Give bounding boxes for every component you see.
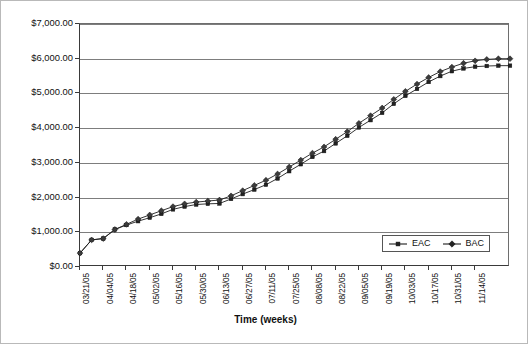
y-axis-tick-label: $7,000.00 xyxy=(1,18,73,28)
x-axis-tick-label: 10/17/05 xyxy=(431,273,440,304)
plot-area xyxy=(79,23,509,266)
data-point xyxy=(414,81,420,87)
data-point xyxy=(427,80,431,84)
x-axis-tick-mark xyxy=(428,266,429,270)
x-axis-tick-mark xyxy=(195,266,196,270)
data-point xyxy=(461,60,467,66)
x-axis-tick-label: 05/16/05 xyxy=(175,273,184,304)
x-axis-tick-mark xyxy=(172,266,173,270)
x-axis-tick-label: 04/04/05 xyxy=(106,273,115,304)
x-axis-tick-label: 05/30/05 xyxy=(199,273,208,304)
legend-marker-square-icon xyxy=(388,239,408,249)
data-point xyxy=(369,118,373,122)
data-point xyxy=(449,64,455,70)
data-point xyxy=(484,57,490,63)
x-axis-tick-mark xyxy=(102,266,103,270)
data-point xyxy=(438,74,442,78)
y-axis-tick-label: $1,000.00 xyxy=(1,226,73,236)
data-point xyxy=(426,75,432,81)
data-point xyxy=(508,64,512,68)
data-point xyxy=(263,177,269,183)
x-axis-tick-label: 09/19/05 xyxy=(385,273,394,304)
data-point xyxy=(497,64,501,68)
legend-marker-diamond-icon xyxy=(442,239,462,249)
data-point xyxy=(298,157,304,163)
x-axis-tick-label: 10/03/05 xyxy=(408,273,417,304)
x-axis-tick-mark xyxy=(149,266,150,270)
data-point xyxy=(321,144,327,150)
y-axis-tick-label: $6,000.00 xyxy=(1,53,73,63)
data-point xyxy=(275,171,281,177)
legend-label: BAC xyxy=(466,238,485,249)
y-axis-tick-label: $2,000.00 xyxy=(1,192,73,202)
data-point xyxy=(392,102,396,106)
x-axis-tick-mark xyxy=(265,266,266,270)
x-axis-tick-label: 07/25/05 xyxy=(292,273,301,304)
data-point xyxy=(415,87,419,91)
x-axis-tick-label: 07/11/05 xyxy=(268,273,277,303)
data-point xyxy=(286,164,292,170)
x-axis-tick-mark xyxy=(79,266,80,270)
x-axis-tick-mark xyxy=(335,266,336,270)
x-axis-tick-label: 06/13/05 xyxy=(222,273,231,304)
x-axis-tick-mark xyxy=(358,266,359,270)
data-point xyxy=(507,56,513,62)
x-axis-tick-label: 11/14/05 xyxy=(478,273,487,303)
x-axis-tick-mark xyxy=(451,266,452,270)
data-point xyxy=(404,94,408,98)
x-axis-tick-label: 03/21/05 xyxy=(82,273,91,304)
legend-entry-eac: EAC xyxy=(388,238,431,249)
x-axis-tick-label: 05/02/05 xyxy=(152,273,161,304)
x-axis-tick-mark xyxy=(218,266,219,270)
data-point xyxy=(485,64,489,68)
data-point xyxy=(437,69,443,75)
series-line-bac xyxy=(80,59,510,253)
x-axis-tick-mark xyxy=(311,266,312,270)
y-axis-tick-label: $3,000.00 xyxy=(1,157,73,167)
data-point xyxy=(276,177,280,181)
x-axis-tick-mark xyxy=(404,266,405,270)
x-axis-tick-label: 08/22/05 xyxy=(338,273,347,304)
data-point xyxy=(462,67,466,71)
y-axis-tick-label: $5,000.00 xyxy=(1,87,73,97)
x-axis-tick-mark xyxy=(288,266,289,270)
data-point xyxy=(251,183,257,189)
x-axis-tick-label: 10/31/05 xyxy=(454,273,463,304)
data-point xyxy=(333,136,339,142)
data-point xyxy=(344,129,350,135)
series-markers-bac xyxy=(77,56,513,256)
y-axis-tick-label: $0.00 xyxy=(1,261,73,271)
legend-label: EAC xyxy=(412,238,431,249)
x-axis-tick-label: 04/18/05 xyxy=(129,273,138,304)
x-axis-tick-label: 06/27/05 xyxy=(245,273,254,304)
series-line-eac xyxy=(80,66,510,253)
data-point xyxy=(472,58,478,64)
data-point xyxy=(380,111,384,115)
chart-legend: EACBAC xyxy=(382,235,490,252)
y-axis-tick-label: $4,000.00 xyxy=(1,122,73,132)
data-point xyxy=(356,120,362,126)
chart-container: $0.00$1,000.00$2,000.00$3,000.00$4,000.0… xyxy=(0,0,528,344)
data-point xyxy=(473,65,477,69)
x-axis-title: Time (weeks) xyxy=(1,314,529,325)
data-point xyxy=(264,183,268,187)
data-point xyxy=(495,56,501,62)
x-axis-tick-label: 08/08/05 xyxy=(315,273,324,304)
x-axis-tick-label: 09/05/05 xyxy=(361,273,370,304)
x-axis-tick-mark xyxy=(381,266,382,270)
data-point xyxy=(368,113,374,119)
legend-entry-bac: BAC xyxy=(442,238,485,249)
data-point xyxy=(403,88,409,94)
x-axis-tick-mark xyxy=(474,266,475,270)
series-markers-eac xyxy=(78,64,512,255)
data-series-layer xyxy=(80,24,510,267)
x-axis-tick-mark xyxy=(125,266,126,270)
x-axis-tick-mark xyxy=(242,266,243,270)
